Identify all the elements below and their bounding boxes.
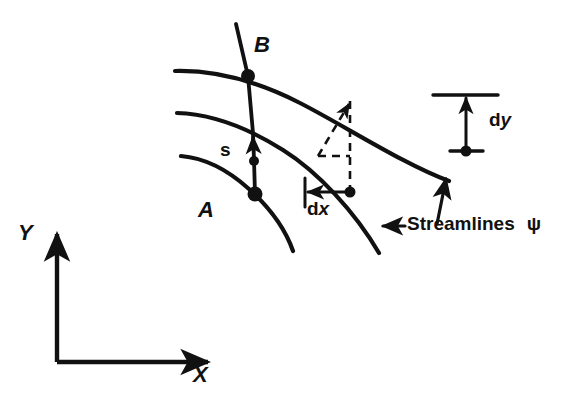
dx-label: dx [307, 199, 329, 218]
s-line [236, 24, 255, 194]
s-line-group [236, 24, 255, 194]
axes-group [57, 234, 208, 362]
axis-x-label: X [193, 364, 208, 386]
figure-canvas [0, 0, 580, 410]
s-direction-arrow-icon [253, 137, 254, 152]
dx-x-glyph: x [319, 198, 330, 219]
point-b-label: B [254, 34, 270, 56]
point-a-label: A [198, 199, 214, 221]
dy-y-glyph: y [501, 109, 512, 130]
dx-d-glyph: d [307, 198, 319, 219]
point-b-marker [241, 69, 255, 83]
streamlines-word: Streamlines [407, 213, 515, 234]
streamline-figure: B A s dx dy Y X Streamlinesψ [0, 0, 580, 410]
dy-label: dy [489, 110, 511, 129]
dy-d-glyph: d [489, 109, 501, 130]
stream-function-symbol: ψ [527, 213, 541, 234]
point-dy-base-marker [461, 146, 472, 157]
point-a-marker [248, 187, 263, 202]
dashed-hypotenuse [318, 104, 349, 156]
axis-y-label: Y [18, 222, 33, 244]
point-s-marker [249, 156, 259, 166]
point-dx-dy-marker [345, 187, 356, 198]
streamlines-label: Streamlinesψ [407, 214, 541, 233]
arc-length-label: s [220, 140, 231, 159]
